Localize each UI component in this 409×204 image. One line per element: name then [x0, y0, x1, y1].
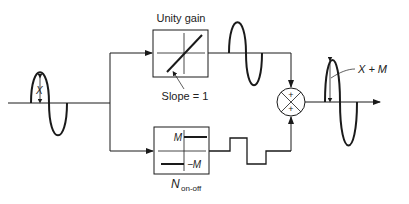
onoff-title: N: [171, 177, 180, 191]
onoff-block: M −M N on-off: [154, 127, 209, 193]
input-wave-negative: [49, 103, 67, 135]
unity-gain-title: Unity gain: [157, 12, 206, 24]
output-signal: X + M: [305, 59, 388, 146]
slope-annotation: Slope = 1: [162, 90, 209, 102]
diagram-canvas: X Unity gain Slope = 1 M −M N on-off: [0, 0, 409, 204]
slope-line: [167, 35, 202, 72]
onoff-level-neg: −M: [187, 159, 202, 170]
onoff-output-wave: [209, 117, 291, 164]
input-amplitude-label: X: [35, 85, 43, 96]
sum-sign-top: +: [288, 90, 293, 100]
onoff-level-pos: M: [174, 132, 183, 143]
onoff-subscript: on-off: [181, 184, 202, 193]
summing-junction: + +: [277, 88, 305, 116]
unity-gain-block: Unity gain Slope = 1: [153, 12, 208, 102]
slope-pointer: [174, 73, 184, 89]
output-label-leader: [331, 69, 355, 78]
input-signal: X: [8, 72, 110, 135]
output-amplitude-label: X + M: [357, 63, 388, 75]
split-branches: [110, 53, 153, 151]
unity-output-wave: [208, 22, 291, 87]
sum-sign-bottom: +: [288, 104, 293, 114]
